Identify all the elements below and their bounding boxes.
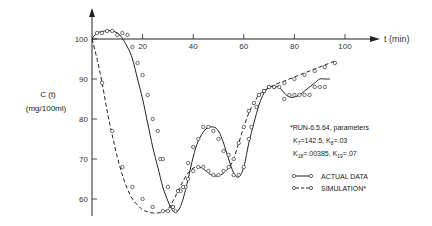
- annotation-run: *RUN-6.5.64, parameters: [290, 124, 369, 132]
- data-point: [242, 125, 245, 128]
- y-tick-label: 80: [79, 115, 88, 124]
- x-tick-label: 20: [138, 42, 147, 51]
- data-point: [202, 125, 205, 128]
- data-point: [250, 125, 253, 128]
- data-point: [174, 209, 177, 212]
- data-point: [197, 137, 200, 140]
- data-point: [131, 185, 134, 188]
- legend-marker-icon: [292, 186, 295, 189]
- y-axis-label: C (t): [40, 90, 56, 99]
- y-tick-label: 90: [79, 75, 88, 84]
- x-tick-label: 40: [189, 42, 198, 51]
- data-point: [141, 73, 144, 76]
- annotation-k7-k8: K7=142.5, K8=.03: [293, 137, 347, 146]
- x-ticks: 20406080100: [138, 34, 352, 51]
- y-tick-label: 100: [75, 35, 89, 44]
- data-point: [318, 85, 321, 88]
- x-axis-label: t (min): [384, 34, 410, 44]
- data-point: [247, 109, 250, 112]
- data-point: [186, 177, 189, 180]
- data-point: [267, 85, 270, 88]
- y-tick-label: 70: [79, 155, 88, 164]
- data-point: [303, 93, 306, 96]
- data-point: [136, 61, 139, 64]
- data-point: [192, 145, 195, 148]
- data-point: [166, 185, 169, 188]
- data-point: [171, 205, 174, 208]
- legend-label-actual: ACTUAL DATA: [321, 173, 368, 180]
- y-axis-units: (mg/100ml): [26, 104, 67, 113]
- data-point: [111, 129, 114, 132]
- data-point: [308, 93, 311, 96]
- data-point: [192, 169, 195, 172]
- data-point: [207, 125, 210, 128]
- data-point: [222, 149, 225, 152]
- data-point: [217, 137, 220, 140]
- data-point: [333, 61, 336, 64]
- data-point: [166, 209, 169, 212]
- data-point: [156, 129, 159, 132]
- data-point: [247, 137, 250, 140]
- data-point: [232, 173, 235, 176]
- data-point: [237, 141, 240, 144]
- data-point: [105, 29, 108, 32]
- data-point: [131, 45, 134, 48]
- legend-marker-icon: [292, 174, 295, 177]
- data-point: [237, 173, 240, 176]
- legend-label-simulation: SIMULATION*: [321, 185, 366, 192]
- data-point: [116, 33, 119, 36]
- data-point: [100, 81, 103, 84]
- data-point: [272, 85, 275, 88]
- data-point: [217, 173, 220, 176]
- data-point: [95, 31, 98, 34]
- legend-actual: ACTUAL DATA: [292, 173, 368, 180]
- data-point: [278, 85, 281, 88]
- x-tick-label: 100: [338, 42, 352, 51]
- data-point: [161, 157, 164, 160]
- data-point: [212, 129, 215, 132]
- x-tick-label: 80: [290, 42, 299, 51]
- data-point: [197, 165, 200, 168]
- x-axis-arrow-icon: [370, 36, 380, 42]
- data-point: [298, 93, 301, 96]
- data-point: [146, 93, 149, 96]
- y-axis-arrow-icon: [89, 8, 95, 17]
- data-point: [186, 161, 189, 164]
- data-point: [323, 65, 326, 68]
- annotation-k18-k19: K18=.00385, K19=.07: [293, 150, 357, 159]
- series-actual-data: [92, 29, 330, 212]
- data-point: [161, 209, 164, 212]
- data-point: [323, 85, 326, 88]
- legend: ACTUAL DATA SIMULATION*: [292, 173, 368, 192]
- y-tick-label: 60: [79, 195, 88, 204]
- data-point: [252, 101, 255, 104]
- data-point: [293, 93, 296, 96]
- data-point: [227, 165, 230, 168]
- data-point: [207, 169, 210, 172]
- data-point: [283, 97, 286, 100]
- data-point: [242, 165, 245, 168]
- data-point: [121, 165, 124, 168]
- data-point: [257, 93, 260, 96]
- data-point: [255, 105, 258, 108]
- data-point: [151, 117, 154, 120]
- data-point: [111, 29, 114, 32]
- data-point: [303, 73, 306, 76]
- parameter-annotation: *RUN-6.5.64, parameters K7=142.5, K8=.03…: [290, 124, 369, 159]
- data-point: [100, 31, 103, 34]
- y-ticks: 10090807060: [75, 35, 97, 204]
- data-point: [181, 185, 184, 188]
- x-tick-label: 60: [239, 42, 248, 51]
- chart: 20406080100 10090807060 t (min) C (t) (m…: [0, 0, 432, 226]
- data-point: [126, 33, 129, 36]
- data-point: [141, 197, 144, 200]
- data-point: [176, 189, 179, 192]
- data-point: [151, 205, 154, 208]
- data-point: [313, 85, 316, 88]
- data-point: [293, 77, 296, 80]
- data-point: [283, 81, 286, 84]
- data-point: [227, 153, 230, 156]
- data-point: [288, 93, 291, 96]
- data-point: [202, 165, 205, 168]
- data-point: [222, 169, 225, 172]
